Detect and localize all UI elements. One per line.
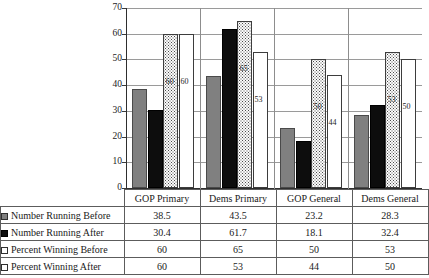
table-body: Number Running Before38.543.523.228.3Num… [1,207,429,275]
bar-2-2 [311,59,326,188]
table-cell-1-0: 30.4 [124,224,200,241]
legend-label: Percent Winning Before [11,244,108,255]
table-row: Percent Winning After60534450 [1,258,429,275]
bar-1-3 [253,52,268,188]
table-row: Number Running After30.461.718.132.4 [1,224,429,241]
column-header-gop-general: GOP General [276,190,352,207]
table-cell-3-1: 53 [200,258,276,275]
bar-1-1 [222,29,237,188]
data-label-3-2: 53 [388,96,396,104]
table-cell-0-1: 43.5 [200,207,276,224]
y-axis-label-50: 50 [113,55,123,65]
bar-3-0 [354,115,369,188]
y-axis-label-20: 20 [113,132,123,142]
bar-2-1 [296,141,311,188]
data-label-1-2: 65 [240,65,248,73]
bar-3-2 [385,52,400,188]
table-cell-1-1: 61.7 [200,224,276,241]
bar-3-3 [401,59,416,188]
legend-swatch-icon [1,213,8,220]
y-axis-label-70: 70 [113,3,123,13]
legend-cell-3: Percent Winning After [1,258,125,275]
table-row: Number Running Before38.543.523.228.3 [1,207,429,224]
data-label-0-3: 60 [181,78,189,86]
legend-cell-2: Percent Winning Before [1,241,125,258]
table-cell-3-3: 50 [352,258,428,275]
data-table: GOP Primary Dems Primary GOP General Dem… [0,189,429,275]
table-cell-0-2: 23.2 [276,207,352,224]
bar-2-3 [327,75,342,188]
column-header-gop-primary: GOP Primary [124,190,200,207]
bar-2-0 [280,128,295,188]
table-header-row: GOP Primary Dems Primary GOP General Dem… [1,190,429,207]
legend-label: Percent Winning After [11,261,101,272]
bar-chart: 010203040506070 6060655350445350 [0,0,425,196]
data-label-1-3: 53 [255,96,263,104]
bar-0-0 [132,89,147,188]
data-label-3-3: 50 [403,103,411,111]
legend-cell-0: Number Running Before [1,207,125,224]
table-row: Percent Winning Before60655053 [1,241,429,258]
table-cell-3-2: 44 [276,258,352,275]
legend-label: Number Running Before [11,210,110,221]
table-cell-2-2: 50 [276,241,352,258]
y-axis-label-60: 60 [113,29,123,39]
table-cell-2-1: 65 [200,241,276,258]
column-header-dems-primary: Dems Primary [200,190,276,207]
bar-1-0 [206,76,221,188]
bar-1-2 [237,21,252,188]
legend-label: Number Running After [11,227,104,238]
table-cell-0-0: 38.5 [124,207,200,224]
legend-swatch-icon [1,264,8,271]
column-header-dems-general: Dems General [352,190,428,207]
table-cell-3-0: 60 [124,258,200,275]
plot-area: 6060655350445350 [126,8,422,188]
legend-swatch-icon [1,230,8,237]
bar-0-2 [163,34,178,188]
y-axis-label-30: 30 [113,106,123,116]
y-axis-label-40: 40 [113,80,123,90]
y-axis-label-10: 10 [113,158,123,168]
table-cell-1-3: 32.4 [352,224,428,241]
bar-0-1 [148,110,163,188]
table-cell-1-2: 18.1 [276,224,352,241]
y-axis-tick-labels: 010203040506070 [100,0,122,196]
data-label-2-3: 44 [329,119,337,127]
table-corner-cell [1,190,125,207]
legend-cell-1: Number Running After [1,224,125,241]
table-cell-2-0: 60 [124,241,200,258]
bar-3-1 [370,105,385,188]
data-label-2-2: 50 [314,103,322,111]
data-label-0-2: 60 [166,78,174,86]
table-cell-0-3: 28.3 [352,207,428,224]
legend-swatch-icon [1,247,8,254]
bar-0-3 [179,34,194,188]
table-cell-2-3: 53 [352,241,428,258]
